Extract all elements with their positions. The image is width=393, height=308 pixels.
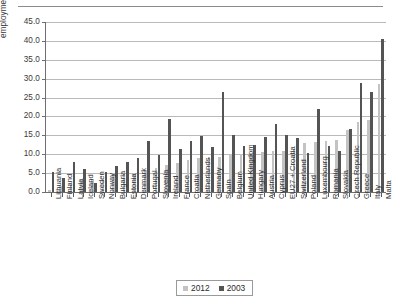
y-tick-label: 45.0 [8,17,40,26]
x-tick-mark [274,193,275,197]
x-tick-mark [381,193,382,197]
legend-label-2003: 2003 [227,283,246,293]
x-tick-mark [221,193,222,197]
legend-item-2003: 2003 [219,283,246,293]
y-tick-label: 5.0 [8,168,40,177]
x-tick-mark [115,193,116,197]
y-tick-label: 10.0 [8,149,40,158]
bar-2012 [48,190,51,192]
x-tick-mark [200,193,201,197]
x-tick-mark [94,193,95,197]
y-tick-label: 20.0 [8,111,40,120]
x-tick-mark [104,193,105,197]
bar-2003 [381,39,384,192]
x-tick-mark [158,193,159,197]
x-tick-label: Czech Republic [352,145,361,199]
x-tick-mark [285,193,286,197]
y-tick-label: 25.0 [8,93,40,102]
top-divider-rule [18,6,383,7]
x-tick-mark [73,193,74,197]
y-tick-label: 35.0 [8,55,40,64]
x-tick-mark [211,193,212,197]
legend-item-2012: 2012 [183,283,210,293]
y-tick-label: 40.0 [8,36,40,45]
x-tick-label: United Kingdom [246,144,255,199]
x-tick-label: EU27 + Croatia [288,146,297,199]
bar-2012 [378,84,381,192]
x-tick-mark [179,193,180,197]
legend-swatch-2012-icon [183,286,188,291]
x-tick-mark [126,193,127,197]
x-tick-mark [359,193,360,197]
x-tick-mark [232,193,233,197]
y-axis-label: employment rate gap, % [0,0,8,38]
x-tick-mark [243,193,244,197]
y-tick-label: 15.0 [8,130,40,139]
x-tick-mark [51,193,52,197]
chart-root: employment rate gap, % 0.05.010.015.020.… [0,0,393,308]
x-tick-mark [349,193,350,197]
legend-swatch-2003-icon [219,286,224,291]
x-tick-mark [168,193,169,197]
x-tick-mark [62,193,63,197]
chart-legend: 2012 2003 [176,280,253,296]
x-tick-mark [370,193,371,197]
y-tick-label: 30.0 [8,74,40,83]
x-tick-label: Malta [384,180,393,199]
y-tick-label: 0.0 [8,187,40,196]
x-tick-mark [189,193,190,197]
x-tick-mark [83,193,84,197]
x-tick-mark [147,193,148,197]
x-tick-mark [338,193,339,197]
x-tick-mark [253,193,254,197]
x-tick-mark [317,193,318,197]
x-tick-mark [328,193,329,197]
x-tick-mark [136,193,137,197]
x-tick-mark [296,193,297,197]
x-tick-mark [264,193,265,197]
legend-label-2012: 2012 [191,283,210,293]
x-tick-mark [306,193,307,197]
x-axis-labels: LithuaniaFinlandLatviaIcelandSwedenNorwa… [46,193,385,288]
